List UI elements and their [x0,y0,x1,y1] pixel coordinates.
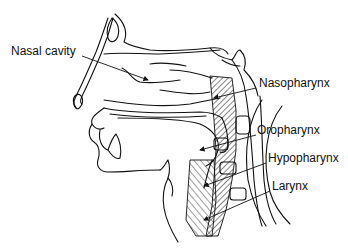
label-nasopharynx: Nasopharynx [259,76,330,90]
label-larynx: Larynx [272,179,308,193]
nasal-cavity-leader [82,56,148,80]
label-hypopharynx: Hypopharynx [268,151,339,165]
label-nasal-cavity: Nasal cavity [11,44,76,58]
larynx-hatched [186,160,216,236]
pharynx-anatomy-diagram: Nasal cavity Nasopharynx Oropharynx Hypo… [0,0,348,250]
label-oropharynx: Oropharynx [257,123,320,137]
